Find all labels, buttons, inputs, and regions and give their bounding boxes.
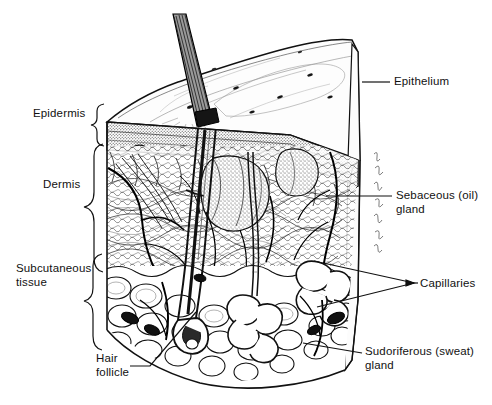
label-hair-follicle: Hair follicle <box>96 352 129 379</box>
label-sebaceous-gland: Sebaceous (oil) gland <box>396 189 478 216</box>
label-epithelium: Epithelium <box>394 75 449 89</box>
label-sudoriferous-gland: Sudoriferous (sweat) gland <box>365 345 474 372</box>
label-capillaries: Capillaries <box>420 277 475 291</box>
label-epidermis: Epidermis <box>33 107 85 121</box>
label-dermis: Dermis <box>43 178 80 192</box>
label-subcutaneous-tissue: Subcutaneous tissue <box>16 262 91 289</box>
sebaceous-gland-secondary <box>276 149 319 196</box>
